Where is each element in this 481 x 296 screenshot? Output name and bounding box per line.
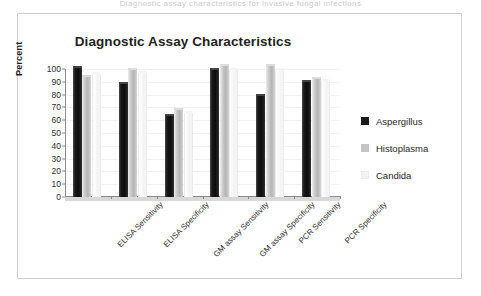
bar-aspergillus-gm-assay-sensitivity xyxy=(165,116,174,197)
x-axis-tick-mark xyxy=(294,196,295,199)
gridline xyxy=(65,171,340,172)
x-axis-tick-mark xyxy=(248,196,249,199)
chart-legend: AspergillusHistoplasmaCandida xyxy=(361,110,461,191)
y-axis-tick-mark xyxy=(62,94,65,95)
chart-title: Diagnostic Assay Characteristics xyxy=(18,34,348,49)
y-axis-tick-mark xyxy=(62,81,65,82)
legend-item-histoplasma: Histoplasma xyxy=(361,137,461,159)
y-axis-tick-label: 60 xyxy=(31,115,61,125)
legend-item-aspergillus: Aspergillus xyxy=(361,110,461,132)
bar-aspergillus-pcr-sensitivity xyxy=(256,96,265,197)
y-axis-tick-mark xyxy=(62,197,65,198)
legend-label: Histoplasma xyxy=(376,143,428,154)
bar-cap xyxy=(302,80,311,82)
bar-histoplasma-pcr-specificity xyxy=(312,79,321,197)
bar-aspergillus-elisa-sensitivity xyxy=(73,68,82,197)
bar-candida-pcr-sensitivity xyxy=(275,70,284,197)
bar-cap xyxy=(312,77,321,79)
y-axis-tick-label: 50 xyxy=(31,128,61,138)
x-axis-tick-labels: ELISA SensitivityELISA SpecificityGM ass… xyxy=(65,200,365,280)
bar-aspergillus-elisa-specificity xyxy=(119,84,128,197)
bar-cap xyxy=(73,66,82,68)
y-axis-tick-mark xyxy=(62,184,65,185)
y-axis-tick-mark xyxy=(62,133,65,134)
chart-figure-frame: Diagnostic Assay Characteristics 1009080… xyxy=(17,13,462,279)
x-axis-tick-label: ELISA Specificity xyxy=(162,200,211,249)
y-axis-tick-label: 40 xyxy=(31,141,61,151)
gridline xyxy=(65,159,340,160)
x-axis-tick-mark xyxy=(340,196,341,199)
y-axis-tick-mark xyxy=(62,145,65,146)
bar-cap xyxy=(210,68,219,70)
bar-histoplasma-elisa-sensitivity xyxy=(82,77,91,197)
gridline xyxy=(65,133,340,134)
y-axis-tick-label: 0 xyxy=(31,192,61,202)
gridline xyxy=(65,146,340,147)
bar-cap xyxy=(82,75,91,77)
bar-histoplasma-pcr-sensitivity xyxy=(266,66,275,197)
x-axis-tick-mark xyxy=(203,196,204,199)
x-axis-tick-mark xyxy=(157,196,158,199)
legend-swatch-aspergillus xyxy=(361,117,369,125)
clipped-caption-text: Diagnostic assay characteristics for inv… xyxy=(0,0,481,11)
bar-cap xyxy=(322,79,329,81)
bar-candida-elisa-specificity xyxy=(138,73,147,197)
bar-candida-gm-assay-specificity xyxy=(229,70,238,197)
gridline xyxy=(65,82,340,83)
bar-candida-elisa-sensitivity xyxy=(92,74,101,197)
bar-histoplasma-elisa-specificity xyxy=(128,70,137,197)
y-axis-tick-mark xyxy=(62,107,65,108)
bar-cap xyxy=(174,108,183,110)
bar-cap xyxy=(256,94,265,96)
bar-cap xyxy=(276,68,283,70)
gridline xyxy=(65,120,340,121)
gridline xyxy=(65,95,340,96)
bar-cap xyxy=(139,71,146,73)
y-axis-tick-label: 10 xyxy=(31,179,61,189)
gridline xyxy=(65,184,340,185)
bar-aspergillus-gm-assay-specificity xyxy=(210,70,219,197)
y-axis-line xyxy=(65,69,66,197)
bar-candida-gm-assay-sensitivity xyxy=(184,113,193,197)
bar-aspergillus-pcr-specificity xyxy=(302,82,311,197)
x-axis-tick-label: PCR Specificity xyxy=(343,200,388,245)
bar-cap xyxy=(185,111,192,113)
y-axis-label: Percent xyxy=(14,42,24,76)
legend-swatch-candida xyxy=(361,171,369,179)
bar-histoplasma-gm-assay-specificity xyxy=(220,66,229,197)
plot-area: 1009080706050403020100 xyxy=(65,69,340,197)
bar-cap xyxy=(93,72,100,74)
gridline xyxy=(65,69,340,70)
y-axis-tick-label: 90 xyxy=(31,77,61,87)
legend-label: Candida xyxy=(376,170,411,181)
legend-label: Aspergillus xyxy=(376,116,422,127)
bar-cap xyxy=(119,82,128,84)
x-axis-tick-mark xyxy=(111,196,112,199)
bar-cap xyxy=(266,64,275,66)
y-axis-tick-label: 100 xyxy=(31,64,61,74)
y-axis-tick-label: 80 xyxy=(31,90,61,100)
x-axis-tick-label: ELISA Sensitivity xyxy=(116,200,165,249)
legend-item-candida: Candida xyxy=(361,164,461,186)
y-axis-tick-label: 20 xyxy=(31,166,61,176)
gridline xyxy=(65,107,340,108)
y-axis-tick-mark xyxy=(62,171,65,172)
y-axis-tick-mark xyxy=(62,69,65,70)
bar-cap xyxy=(165,114,174,116)
y-axis-tick-label: 30 xyxy=(31,154,61,164)
bar-histoplasma-gm-assay-sensitivity xyxy=(174,110,183,197)
y-axis-tick-mark xyxy=(62,120,65,121)
y-axis-tick-label: 70 xyxy=(31,102,61,112)
y-axis-tick-mark xyxy=(62,158,65,159)
bar-candida-pcr-specificity xyxy=(321,81,330,197)
bar-cap xyxy=(220,64,229,66)
bar-cap xyxy=(128,68,137,70)
bar-cap xyxy=(230,68,237,70)
legend-swatch-histoplasma xyxy=(361,144,369,152)
